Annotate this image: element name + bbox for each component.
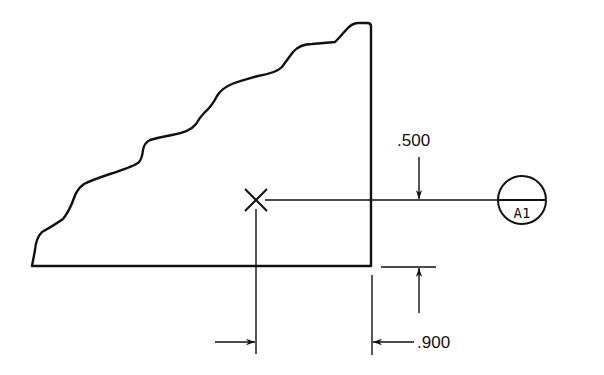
dimension-label-horizontal: .900 [417,333,450,352]
dimension-label-vertical: .500 [397,131,430,150]
horizontal-dimension: .900 [215,333,450,352]
datum-label: A1 [514,205,531,221]
datum-bubble: A1 [498,176,546,224]
cross-mark-icon [245,189,267,211]
vertical-dimension: .500 [397,131,430,313]
drawing-canvas: .500 .900 A1 [0,0,604,375]
part-outline [32,23,371,266]
